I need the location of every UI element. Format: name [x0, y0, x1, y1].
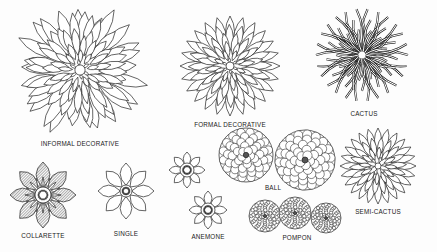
- formal-decorative-flower: [180, 16, 280, 116]
- informal-decorative-flower: [19, 9, 148, 132]
- label-single: SINGLE: [114, 230, 138, 237]
- collarette-flower: [10, 162, 76, 228]
- pompon-flower-1: [249, 200, 281, 232]
- label-cactus: CACTUS: [350, 110, 377, 117]
- label-anemone: ANEMONE: [191, 233, 224, 240]
- pompon-flower-2: [279, 197, 311, 229]
- pompon-flower-3: [311, 203, 341, 233]
- label-semi-cactus: SEMI-CACTUS: [355, 208, 401, 215]
- label-pompon: POMPON: [282, 234, 311, 241]
- dahlia-forms-diagram: INFORMAL DECORATIVE FORMAL DECORATIVE CA…: [0, 0, 437, 252]
- label-formal-decorative: FORMAL DECORATIVE: [194, 121, 266, 128]
- semi-cactus-flower: [340, 128, 416, 204]
- ball-flower-large: [275, 130, 335, 190]
- anemone-flower-top: [169, 152, 205, 188]
- single-flower: [98, 163, 154, 219]
- label-informal-decorative: INFORMAL DECORATIVE: [41, 140, 119, 147]
- label-collarette: COLLARETTE: [21, 232, 64, 239]
- anemone-flower-bottom: [189, 191, 227, 229]
- ball-flower-small: [219, 128, 273, 182]
- label-ball: BALL: [265, 184, 281, 191]
- cactus-flower: [316, 9, 408, 100]
